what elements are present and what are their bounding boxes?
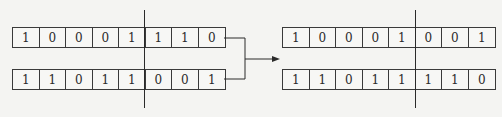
arrow-head-icon — [272, 56, 280, 62]
crossover-arrow-connector — [0, 0, 502, 117]
